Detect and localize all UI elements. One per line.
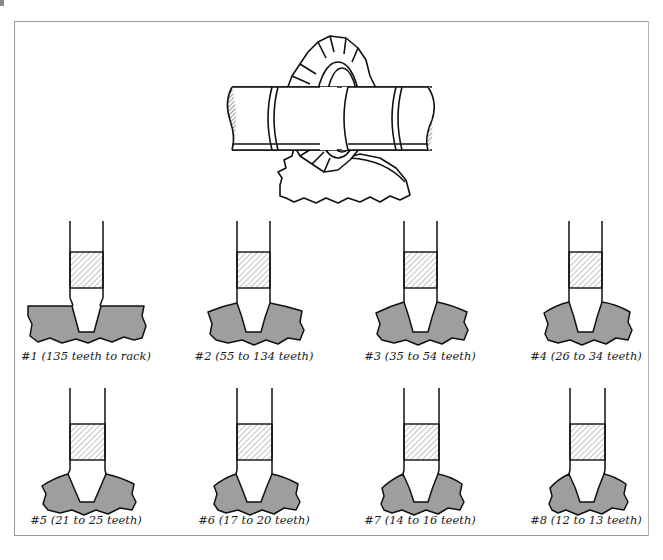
cutter-2-caption: #2 (55 to 134 teeth) bbox=[184, 349, 324, 363]
cutter-6-caption: #6 (17 to 20 teeth) bbox=[184, 513, 324, 527]
cutter-6-profile-icon bbox=[184, 384, 324, 524]
cutter-5-profile-icon bbox=[16, 384, 156, 524]
cutter-4-profile-icon bbox=[516, 212, 656, 352]
cutter-8-profile-icon bbox=[516, 384, 656, 524]
gear-cutter-illustration-icon bbox=[220, 30, 435, 210]
cutter-3-caption: #3 (35 to 54 teeth) bbox=[350, 349, 490, 363]
cutter-3-profile-icon bbox=[350, 212, 490, 352]
cutter-4: #4 (26 to 34 teeth) bbox=[516, 212, 656, 382]
cutter-1-caption: #1 (135 teeth to rack) bbox=[16, 349, 156, 363]
cutter-8-caption: #8 (12 to 13 teeth) bbox=[516, 513, 656, 527]
cutter-7: #7 (14 to 16 teeth) bbox=[350, 384, 490, 554]
cutter-1: #1 (135 teeth to rack) bbox=[16, 212, 156, 382]
cutter-4-caption: #4 (26 to 34 teeth) bbox=[516, 349, 656, 363]
cutter-5-caption: #5 (21 to 25 teeth) bbox=[16, 513, 156, 527]
cutter-3: #3 (35 to 54 teeth) bbox=[350, 212, 490, 382]
cutter-7-profile-icon bbox=[350, 384, 490, 524]
cutter-6: #6 (17 to 20 teeth) bbox=[184, 384, 324, 554]
cutter-2: #2 (55 to 134 teeth) bbox=[184, 212, 324, 382]
cutter-5: #5 (21 to 25 teeth) bbox=[16, 384, 156, 554]
cutter-2-profile-icon bbox=[184, 212, 324, 352]
cutter-1-profile-icon bbox=[16, 212, 156, 352]
page-corner-mark bbox=[0, 0, 4, 6]
cutter-7-caption: #7 (14 to 16 teeth) bbox=[350, 513, 490, 527]
cutter-8: #8 (12 to 13 teeth) bbox=[516, 384, 656, 554]
